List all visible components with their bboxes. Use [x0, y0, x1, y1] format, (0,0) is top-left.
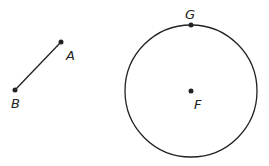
- point-a: [59, 40, 64, 45]
- label-b: B: [11, 96, 20, 111]
- label-f: F: [194, 97, 202, 112]
- segment-ab: [15, 42, 61, 90]
- label-a: A: [65, 48, 75, 63]
- geometry-diagram: A B F G: [0, 0, 269, 166]
- point-g: [189, 23, 194, 28]
- point-f-center: [189, 89, 194, 94]
- point-b: [13, 88, 18, 93]
- label-g: G: [185, 7, 195, 22]
